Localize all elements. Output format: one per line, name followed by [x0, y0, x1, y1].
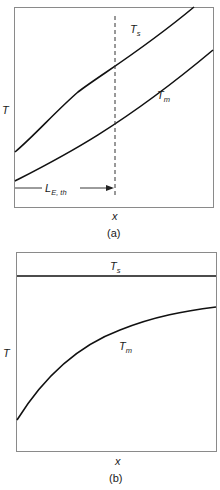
panel-b: Ts Tm T x (b) [3, 253, 217, 485]
panel-b-y-axis-label: T [3, 347, 11, 359]
panel-a-x-axis-label: x [111, 210, 118, 222]
panel-a-y-axis-label: T [2, 104, 10, 116]
entry-length-label: LE, th [45, 182, 67, 197]
panel-a-ts-label: Ts [130, 23, 141, 38]
panel-a: LE, th Ts Tm T x (a) [2, 7, 214, 239]
panel-b-tm-label: Tm [119, 340, 132, 355]
panel-b-ts-label: Ts [110, 260, 121, 275]
panel-a-caption: (a) [107, 227, 120, 239]
panel-a-tm-label: Tm [157, 89, 170, 104]
panel-a-tm-curve [15, 50, 213, 181]
panel-a-frame [15, 8, 214, 208]
figure: LE, th Ts Tm T x (a) Ts Tm T x (b) [0, 0, 220, 490]
arrowhead-icon [106, 185, 114, 191]
panel-b-x-axis-label: x [114, 455, 121, 467]
panel-b-caption: (b) [109, 472, 122, 484]
panel-b-frame [17, 253, 217, 452]
panel-b-tm-curve [17, 307, 216, 420]
